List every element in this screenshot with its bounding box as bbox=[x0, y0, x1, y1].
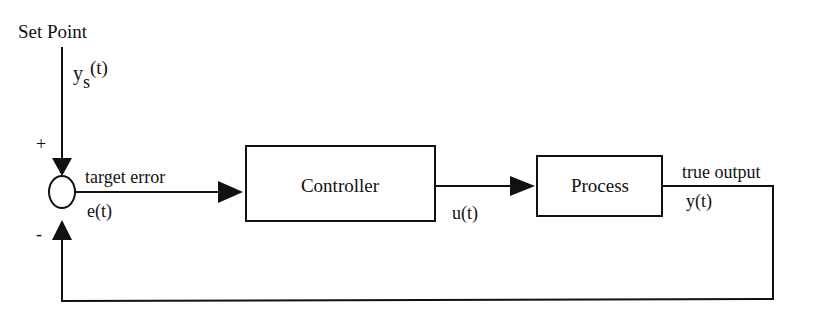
error-label: target error bbox=[85, 167, 165, 187]
controller-label: Controller bbox=[301, 175, 380, 196]
control-signal-symbol: u(t) bbox=[452, 203, 478, 224]
output-label: true output bbox=[682, 162, 761, 182]
setpoint-signal: ys(t) bbox=[73, 57, 108, 92]
process-label: Process bbox=[571, 175, 629, 196]
error-arrowhead bbox=[218, 181, 243, 203]
feedback-path bbox=[62, 186, 773, 301]
control-loop-diagram: Set Point ys(t) + - target error e(t) Co… bbox=[0, 0, 813, 320]
setpoint-title: Set Point bbox=[18, 21, 88, 42]
minus-sign: - bbox=[36, 224, 42, 244]
error-symbol: e(t) bbox=[87, 201, 112, 222]
control-arrowhead bbox=[510, 176, 535, 196]
summing-junction bbox=[49, 176, 75, 208]
plus-sign: + bbox=[36, 134, 46, 154]
setpoint-arrowhead bbox=[52, 158, 72, 176]
feedback-arrowhead bbox=[52, 220, 72, 240]
output-symbol: y(t) bbox=[686, 191, 712, 212]
